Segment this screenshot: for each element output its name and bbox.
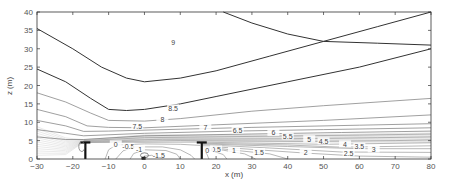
x-axis-label: x (m) bbox=[225, 170, 244, 179]
x-tick-label: 80 bbox=[427, 162, 436, 171]
contour-label: 2 bbox=[304, 149, 308, 156]
y-tick-label: 25 bbox=[24, 63, 33, 72]
contour-label: 0 bbox=[114, 141, 118, 148]
contour-label: 1 bbox=[232, 147, 236, 154]
contour-label: 3 bbox=[372, 146, 376, 153]
x-tick-label: 20 bbox=[212, 162, 221, 171]
contour-line bbox=[37, 12, 431, 82]
contour-label: 0 bbox=[205, 147, 209, 154]
contour-label: 7.5 bbox=[132, 123, 142, 130]
contour-line bbox=[37, 93, 431, 121]
x-tick-label: 40 bbox=[283, 162, 292, 171]
contour-label: 3.5 bbox=[354, 143, 364, 150]
y-tick-label: 10 bbox=[24, 118, 33, 127]
contour-label: 1.5 bbox=[254, 149, 264, 156]
contour-label: 6.5 bbox=[233, 127, 243, 134]
contour-label: 2.5 bbox=[344, 150, 354, 157]
contour-label: 4.5 bbox=[319, 138, 329, 145]
x-tick-label: 60 bbox=[355, 162, 364, 171]
contour-label: 7 bbox=[203, 124, 207, 131]
contour-label: -1.5 bbox=[153, 152, 165, 159]
contour-label: 5.5 bbox=[283, 133, 293, 140]
y-tick-label: 30 bbox=[24, 45, 33, 54]
x-tick-label: 70 bbox=[391, 162, 400, 171]
x-tick-label: −20 bbox=[66, 162, 80, 171]
y-tick-label: 20 bbox=[24, 82, 33, 91]
y-tick-label: 5 bbox=[29, 137, 34, 146]
y-tick-label: 0 bbox=[29, 155, 34, 164]
contour-label: 6 bbox=[271, 129, 275, 136]
contour-label: -0.5 bbox=[122, 143, 134, 150]
x-tick-label: 50 bbox=[319, 162, 328, 171]
contour-label: 5 bbox=[307, 136, 311, 143]
x-tick-label: 0 bbox=[142, 162, 147, 171]
contour-label: -1 bbox=[136, 146, 142, 153]
y-tick-label: 15 bbox=[24, 100, 33, 109]
contour-chart: 98.587.576.565.554.543.532.521.510.500-0… bbox=[0, 0, 450, 188]
contour-label: 8.5 bbox=[168, 105, 178, 112]
x-tick-label: 30 bbox=[247, 162, 256, 171]
contour-label: 9 bbox=[171, 39, 175, 46]
contour-label: 8 bbox=[160, 116, 164, 123]
y-axis-label: z (m) bbox=[5, 77, 14, 96]
contour-line bbox=[37, 49, 431, 111]
y-tick-label: 40 bbox=[24, 8, 33, 17]
x-tick-label: −10 bbox=[102, 162, 116, 171]
x-tick-label: 10 bbox=[176, 162, 185, 171]
contour-label: 4 bbox=[343, 141, 347, 148]
y-tick-label: 35 bbox=[24, 26, 33, 35]
